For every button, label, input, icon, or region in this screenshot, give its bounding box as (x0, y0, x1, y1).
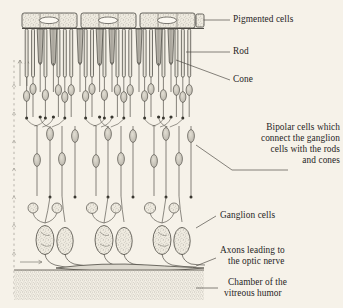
label-cone: Cone (233, 74, 253, 85)
vitreous-humor-chamber (14, 270, 204, 300)
label-bipolar-cells-line-2: connect the ganglion (198, 133, 340, 144)
label-chamber-line-1: Chamber of the (228, 277, 287, 288)
label-chamber-line-2: vitreous humor (224, 288, 282, 299)
label-axons-line-1: Axons leading to (220, 245, 285, 256)
label-bipolar-cells-line-3: cells with the rods (198, 144, 340, 155)
label-bipolar-cells-line-4: and cones (198, 155, 340, 166)
label-ganglion-cells: Ganglion cells (220, 210, 275, 221)
pigmented-cell-layer (22, 13, 204, 28)
retina-diagram-figure: Pigmented cells Rod Cone Bipolar cells w… (0, 0, 343, 308)
label-bipolar-cells-line-1: Bipolar cells which (198, 122, 340, 133)
label-axons-line-2: the optic nerve (228, 256, 284, 267)
label-rod: Rod (233, 46, 249, 57)
label-pigmented-cells: Pigmented cells (233, 14, 293, 25)
